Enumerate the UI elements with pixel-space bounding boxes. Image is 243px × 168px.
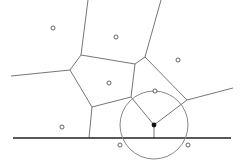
voronoi-edge <box>70 55 81 70</box>
site-point <box>186 143 190 147</box>
site-point <box>51 26 55 30</box>
site-point <box>107 81 111 85</box>
voronoi-diagram <box>0 0 243 168</box>
voronoi-edge <box>11 70 70 76</box>
voronoi-edges <box>11 0 233 138</box>
voronoi-edge <box>89 107 92 138</box>
voronoi-edge <box>145 0 161 57</box>
site-point <box>153 89 157 93</box>
site-point <box>114 35 118 39</box>
voronoi-edge <box>131 64 135 97</box>
voronoi-edge <box>135 57 145 64</box>
voronoi-edge <box>131 97 154 125</box>
voronoi-edge <box>187 88 233 100</box>
site-point <box>118 143 122 147</box>
voronoi-edge <box>92 97 131 107</box>
voronoi-edge <box>70 70 92 107</box>
voronoi-edge <box>81 55 135 64</box>
event-point <box>152 123 157 128</box>
site-point <box>60 125 64 129</box>
site-point <box>176 58 180 62</box>
voronoi-edge <box>81 0 88 55</box>
voronoi-edge <box>154 100 187 125</box>
